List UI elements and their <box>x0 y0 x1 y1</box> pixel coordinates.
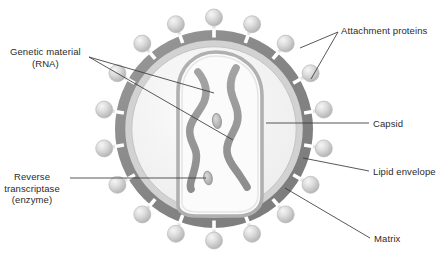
attachment-protein-sphere <box>167 225 184 242</box>
attachment-protein-sphere <box>277 206 294 223</box>
attachment-protein-sphere <box>206 9 223 26</box>
leader-attachment-proteins-1 <box>300 32 338 48</box>
label-genetic-material-line2: (RNA) <box>10 58 81 70</box>
attachment-protein-sphere <box>134 206 151 223</box>
attachment-protein-sphere <box>244 225 261 242</box>
leader-lipid-envelope <box>303 158 369 171</box>
label-capsid: Capsid <box>373 118 403 130</box>
attachment-protein-sphere <box>244 16 261 33</box>
label-genetic-material-line1: Genetic material <box>10 46 81 58</box>
attachment-protein-sphere <box>302 65 319 82</box>
envelope-segment-gap <box>115 112 124 114</box>
label-reverse-transcriptase-line1: Reverse <box>0 171 64 183</box>
label-reverse-transcriptase: Reverse transcriptase (enzyme) <box>0 171 64 206</box>
attachment-protein-sphere <box>206 232 223 249</box>
attachment-protein-sphere <box>96 140 113 157</box>
attachment-protein-sphere <box>109 176 126 193</box>
attachment-protein-sphere <box>277 35 294 52</box>
envelope-segment-gap <box>304 112 313 114</box>
leader-attachment-proteins-2 <box>311 32 338 79</box>
attachment-protein-sphere <box>167 16 184 33</box>
attachment-protein-sphere <box>315 101 332 118</box>
attachment-protein-sphere <box>302 176 319 193</box>
label-genetic-material: Genetic material (RNA) <box>10 46 81 69</box>
attachment-protein-sphere <box>315 140 332 157</box>
label-lipid-envelope: Lipid envelope <box>373 166 436 178</box>
envelope-segment-gap <box>115 145 124 147</box>
label-reverse-transcriptase-line3: (enzyme) <box>0 194 64 206</box>
attachment-protein-sphere <box>96 101 113 118</box>
envelope-segment-gap <box>304 145 313 147</box>
label-matrix: Matrix <box>374 233 400 245</box>
leader-matrix <box>285 188 370 238</box>
attachment-protein-sphere <box>134 35 151 52</box>
label-reverse-transcriptase-line2: transcriptase <box>0 183 64 195</box>
label-attachment-proteins: Attachment proteins <box>341 25 427 37</box>
virus-diagram <box>0 0 443 260</box>
